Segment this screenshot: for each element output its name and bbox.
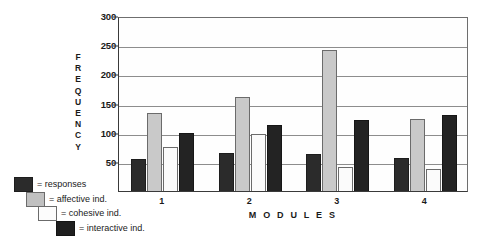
bar-group-module-2 [207, 18, 295, 191]
y-axis-title-letter-1: R [72, 63, 84, 74]
x-axis-tick-label-2: 2 [234, 196, 264, 206]
legend-swatch-interactive-ind [56, 221, 75, 236]
y-axis-tick-labels: 50100150200250300 [84, 17, 116, 192]
plot-area [118, 17, 468, 192]
legend-swatch-cohesive-ind [38, 206, 57, 221]
y-axis-title-letter-4: U [72, 97, 84, 108]
y-axis-title-letter-5: E [72, 108, 84, 119]
legend-label-interactive-ind: = interactive ind. [79, 224, 145, 233]
y-axis-title-letter-0: F [72, 52, 84, 63]
legend-label-cohesive-ind: = cohesive ind. [61, 209, 121, 218]
bar-interactive-ind-module-3 [354, 120, 369, 191]
bar-responses-module-2 [219, 153, 234, 191]
y-axis-tick-label-50: 50 [88, 158, 116, 168]
x-axis-tick-label-4: 4 [409, 196, 439, 206]
y-axis-title-letter-3: Q [72, 86, 84, 97]
bar-cohesive-ind-module-2 [251, 134, 266, 191]
bar-interactive-ind-module-4 [442, 115, 457, 191]
y-axis-title-letter-6: N [72, 119, 84, 130]
bar-cohesive-ind-module-4 [426, 169, 441, 191]
bar-chart-figure: FREQUENCY 50100150200250300 1234 M O D U… [0, 0, 494, 245]
chart-legend: = responses= affective ind.= cohesive in… [14, 176, 194, 242]
bar-group-module-4 [382, 18, 470, 191]
legend-item-interactive-ind: = interactive ind. [56, 220, 145, 237]
y-axis-title-letter-8: Y [72, 142, 84, 153]
legend-label-responses: = responses [37, 180, 86, 189]
bar-responses-module-4 [394, 158, 409, 191]
y-axis-title: FREQUENCY [72, 52, 84, 153]
y-axis-tick-label-100: 100 [88, 129, 116, 139]
bar-responses-module-3 [306, 154, 321, 191]
y-axis-tick-label-250: 250 [88, 41, 116, 51]
y-axis-tick-label-200: 200 [88, 71, 116, 81]
y-axis-title-letter-2: E [72, 74, 84, 85]
bar-affective-ind-module-3 [322, 50, 337, 191]
y-axis-tick-label-150: 150 [88, 100, 116, 110]
bar-group-module-3 [294, 18, 382, 191]
legend-swatch-responses [14, 177, 33, 192]
bar-affective-ind-module-4 [410, 119, 425, 191]
bar-cohesive-ind-module-3 [338, 167, 353, 192]
bar-affective-ind-module-2 [235, 97, 250, 192]
bar-interactive-ind-module-2 [267, 125, 282, 191]
legend-label-affective-ind: = affective ind. [49, 195, 107, 204]
bar-group-module-1 [119, 18, 207, 191]
y-axis-tick-label-300: 300 [88, 12, 116, 22]
x-axis-tick-label-3: 3 [322, 196, 352, 206]
y-axis-title-letter-7: C [72, 130, 84, 141]
